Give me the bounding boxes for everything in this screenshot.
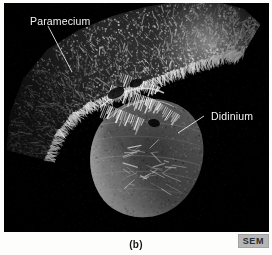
figure-caption: (b): [0, 239, 272, 250]
annotation-label-didinium: Didinium: [211, 111, 253, 122]
sem-figure: Paramecium Didinium SEM (b): [0, 0, 272, 255]
annotation-label-paramecium: Paramecium: [30, 16, 90, 27]
micrograph-photo-panel: Paramecium Didinium: [4, 3, 269, 232]
